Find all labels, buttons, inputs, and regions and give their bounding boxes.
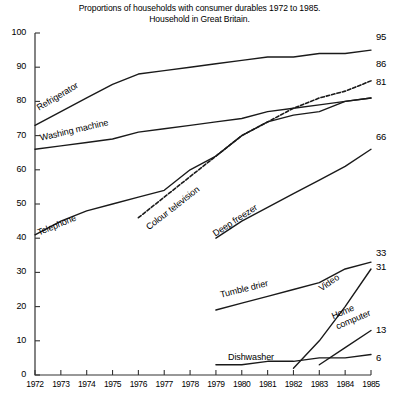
- series-end-value: 13: [376, 324, 386, 335]
- x-axis-label: 1982: [280, 379, 306, 389]
- series-line-refrigerator: [35, 50, 371, 125]
- series-end-value: 33: [376, 247, 386, 258]
- series-end-value: 66: [376, 131, 386, 142]
- series-line-deep-freezer: [216, 149, 371, 238]
- y-axis-label: 0: [2, 369, 26, 379]
- y-axis-label: 70: [2, 130, 26, 140]
- x-axis-label: 1984: [332, 379, 358, 389]
- x-axis-label: 1985: [358, 379, 384, 389]
- y-axis-label: 30: [2, 266, 26, 276]
- series-end-value: 6: [376, 352, 381, 363]
- series-line-home-computer: [319, 331, 371, 365]
- y-axis-label: 40: [2, 232, 26, 242]
- x-axis-label: 1977: [151, 379, 177, 389]
- chart-plot-area: [0, 0, 399, 400]
- y-axis-label: 50: [2, 198, 26, 208]
- y-axis-label: 60: [2, 164, 26, 174]
- x-axis-label: 1976: [125, 379, 151, 389]
- x-axis-label: 1980: [229, 379, 255, 389]
- chart-axis-lines: [35, 33, 371, 375]
- y-axis-label: 20: [2, 301, 26, 311]
- series-end-value: 95: [376, 31, 386, 42]
- series-end-value: 86: [376, 58, 386, 69]
- x-axis-label: 1972: [22, 379, 48, 389]
- x-axis-label: 1981: [255, 379, 281, 389]
- series-end-value: 31: [376, 261, 386, 272]
- y-axis-label: 90: [2, 61, 26, 71]
- x-axis-label: 1974: [74, 379, 100, 389]
- chart-container: Proportions of households with consumer …: [0, 0, 399, 400]
- x-axis-label: 1978: [177, 379, 203, 389]
- series-line-colour-television: [138, 81, 371, 218]
- series-end-value: 81: [376, 76, 386, 87]
- x-axis-label: 1979: [203, 379, 229, 389]
- y-axis-label: 10: [2, 335, 26, 345]
- y-axis-label: 80: [2, 95, 26, 105]
- x-axis-label: 1983: [306, 379, 332, 389]
- y-axis-label: 100: [2, 27, 26, 37]
- x-axis-label: 1973: [48, 379, 74, 389]
- x-axis-label: 1975: [100, 379, 126, 389]
- series-label-dishwasher: Dishwasher: [228, 352, 274, 362]
